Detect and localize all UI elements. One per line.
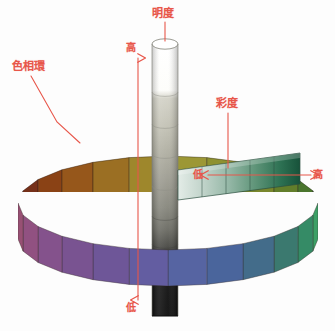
- hue-ring-segment: [62, 236, 93, 279]
- hue-ring-segment: [298, 215, 313, 262]
- diagram-canvas: 明度 色相環 彩度 高 低 低 高: [0, 0, 335, 331]
- hue-ring-segment: [23, 215, 38, 262]
- hue-circle-label: 色相環: [12, 61, 45, 72]
- hue-ring-segment: [38, 227, 62, 273]
- hue-ring-segment: [93, 158, 129, 199]
- hue-ring-segment: [129, 248, 168, 286]
- hue-ring-segment: [313, 203, 318, 251]
- color-solid-illustration: [0, 0, 335, 331]
- hue-ring-segment: [93, 244, 129, 285]
- chroma-high-label: 高: [313, 170, 323, 180]
- hue-ring-segment: [38, 170, 62, 216]
- hue-ring-segment: [274, 227, 298, 273]
- value-axis-label: 明度: [152, 8, 174, 19]
- chroma-low-label: 低: [193, 170, 203, 180]
- hue-label-leader: [31, 76, 80, 143]
- hue-ring-segment: [168, 248, 207, 286]
- value-high-label: 高: [126, 43, 136, 53]
- hue-ring-segment: [207, 244, 243, 285]
- hue-ring-segment: [62, 162, 93, 205]
- chroma-axis-label: 彩度: [216, 98, 238, 109]
- hue-ring-segment: [18, 203, 23, 251]
- value-low-label: 低: [126, 303, 136, 313]
- hue-ring-segment: [243, 236, 274, 279]
